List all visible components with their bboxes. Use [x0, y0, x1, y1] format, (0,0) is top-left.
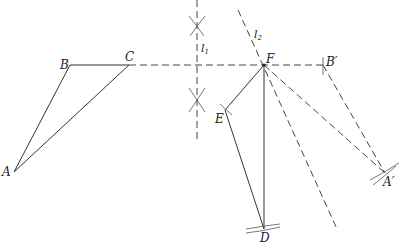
label-l1-subscript: 1 — [205, 48, 209, 56]
segment-fe — [225, 65, 264, 110]
label-d: D — [259, 231, 270, 245]
label-e: E — [214, 112, 224, 126]
geometry-diagram: A B C F B′ E D A′ l1 l2 — [0, 0, 401, 245]
label-aprime: A′ — [382, 175, 395, 189]
segment-ab — [14, 65, 70, 172]
label-c: C — [125, 50, 134, 64]
label-b: B — [59, 58, 69, 72]
dashed-line-f-aprime — [264, 65, 385, 173]
label-a: A — [1, 165, 11, 179]
dashed-line-bprime-aprime — [323, 65, 385, 173]
label-l1: l1 — [201, 42, 209, 56]
label-l2: l2 — [254, 28, 263, 42]
segment-ac — [14, 65, 129, 172]
label-bprime: B′ — [325, 55, 338, 69]
label-f: F — [265, 52, 275, 66]
segment-ed — [225, 110, 264, 229]
label-l2-subscript: 2 — [257, 34, 263, 42]
